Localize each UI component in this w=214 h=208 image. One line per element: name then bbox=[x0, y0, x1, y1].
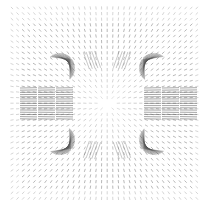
vector-arrow bbox=[184, 69, 187, 70]
vector-arrow bbox=[22, 147, 25, 148]
vector-arrow bbox=[27, 86, 30, 87]
vector-arrow bbox=[44, 52, 46, 54]
vector-arrow bbox=[78, 147, 80, 150]
vector-arrow bbox=[16, 58, 19, 59]
vector-arrow bbox=[33, 29, 35, 31]
vector-arrow bbox=[33, 7, 35, 10]
vector-arrow bbox=[190, 181, 192, 183]
vector-arrow bbox=[62, 35, 64, 38]
vector-arrow bbox=[22, 75, 25, 76]
vector-arrow bbox=[16, 147, 19, 148]
vector-arrow bbox=[173, 142, 176, 144]
vector-arrow bbox=[140, 175, 141, 178]
vector-arrow bbox=[156, 63, 159, 65]
vector-arrow bbox=[190, 52, 193, 54]
vector-arrow bbox=[33, 125, 36, 126]
vector-arrow bbox=[45, 164, 47, 166]
vector-arrow bbox=[73, 169, 74, 172]
vector-arrow bbox=[196, 41, 199, 43]
vector-arrow bbox=[173, 120, 176, 121]
vector-arrow bbox=[139, 92, 142, 93]
vector-arrow bbox=[56, 46, 58, 48]
vector-arrow bbox=[184, 63, 187, 64]
vector-arrow bbox=[62, 23, 64, 26]
vector-arrow bbox=[179, 180, 181, 182]
vector-arrow bbox=[78, 97, 81, 98]
vector-arrow bbox=[184, 131, 187, 132]
vector-arrow bbox=[129, 180, 130, 183]
vector-arrow bbox=[50, 12, 52, 15]
vector-arrow bbox=[96, 169, 97, 172]
vector-arrow bbox=[145, 125, 148, 127]
vector-arrow bbox=[162, 24, 164, 27]
vector-arrow bbox=[168, 12, 170, 15]
vector-arrow bbox=[185, 24, 187, 26]
vector-arrow bbox=[79, 29, 80, 32]
vector-arrow bbox=[162, 63, 165, 65]
vector-arrow bbox=[157, 164, 159, 166]
vector-arrow bbox=[118, 124, 119, 127]
vector-arrow bbox=[62, 180, 64, 183]
vector-arrow bbox=[90, 12, 91, 15]
vector-arrow bbox=[11, 29, 14, 31]
vector-arrow bbox=[28, 24, 30, 26]
vector-arrow bbox=[129, 130, 131, 132]
vector-arrow bbox=[56, 63, 59, 65]
vector-arrow bbox=[73, 40, 75, 43]
vector-arrow bbox=[129, 6, 130, 9]
vector-arrow bbox=[11, 35, 14, 37]
vector-arrow bbox=[45, 41, 47, 43]
vector-arrow bbox=[56, 141, 59, 143]
vector-arrow bbox=[129, 186, 130, 189]
vector-arrow bbox=[84, 169, 85, 172]
vector-arrow bbox=[11, 197, 13, 199]
vector-arrow bbox=[39, 136, 42, 137]
vector-arrow bbox=[173, 136, 176, 137]
vector-arrow bbox=[45, 7, 47, 10]
vector-arrow bbox=[118, 119, 120, 122]
vector-arrow bbox=[90, 174, 91, 177]
vector-arrow bbox=[140, 46, 142, 49]
vector-arrow bbox=[11, 147, 14, 148]
vector-arrow bbox=[16, 80, 19, 81]
vector-arrow bbox=[27, 147, 30, 149]
vector-arrow bbox=[67, 197, 68, 200]
vector-arrow bbox=[179, 153, 182, 155]
vector-arrow bbox=[167, 69, 170, 71]
vector-arrow bbox=[50, 75, 53, 76]
vector-arrow bbox=[162, 57, 164, 59]
vector-arrow bbox=[62, 7, 63, 10]
vector-arrow bbox=[140, 125, 143, 127]
vector-arrow bbox=[39, 69, 42, 70]
vector-arrow bbox=[67, 130, 70, 132]
vector-arrow bbox=[39, 125, 42, 126]
vector-arrow bbox=[173, 192, 175, 195]
vector-arrow bbox=[78, 152, 80, 155]
vector-arrow bbox=[33, 75, 36, 76]
vector-arrow bbox=[184, 58, 187, 60]
vector-arrow bbox=[83, 91, 86, 93]
vector-arrow bbox=[73, 180, 74, 183]
vector-arrow bbox=[139, 86, 142, 87]
vector-arrow bbox=[96, 135, 97, 138]
vector-arrow bbox=[173, 29, 175, 31]
vector-arrow bbox=[129, 158, 130, 161]
vector-arrow bbox=[162, 158, 164, 160]
vector-arrow bbox=[184, 35, 186, 37]
vector-arrow bbox=[62, 191, 63, 194]
vector-arrow bbox=[112, 85, 113, 88]
vector-arrow bbox=[50, 191, 52, 194]
vector-arrow bbox=[55, 80, 58, 81]
vector-arrow bbox=[33, 180, 35, 182]
vector-arrow bbox=[50, 142, 53, 144]
vector-arrow bbox=[146, 40, 148, 43]
vector-arrow bbox=[140, 180, 141, 183]
vector-arrow bbox=[79, 23, 80, 26]
vector-arrow bbox=[179, 41, 181, 43]
vector-arrow bbox=[179, 158, 182, 160]
vector-arrow bbox=[162, 86, 165, 87]
vector-arrow bbox=[117, 108, 120, 109]
vector-arrow bbox=[195, 136, 198, 137]
vector-arrow bbox=[101, 96, 103, 98]
vector-arrow bbox=[134, 147, 136, 150]
